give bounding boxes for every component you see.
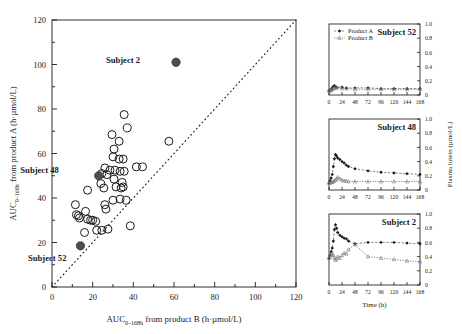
series-marker-product-a (329, 176, 332, 179)
panel-x-tick-label: 96 (378, 99, 384, 105)
panel-y-tick-label: 1.0 (425, 116, 432, 122)
panel-x-tick-label: 24 (339, 289, 345, 295)
series-marker-product-a (405, 241, 408, 244)
series-marker-product-a (353, 167, 356, 170)
y-tick-label: 100 (33, 60, 46, 70)
series-marker-product-a (405, 172, 408, 175)
data-point-open (115, 137, 123, 145)
panel-x-tick-label: 72 (365, 289, 371, 295)
panel-y-tick-label: 0 (425, 187, 428, 193)
x-tick-label: 0 (50, 292, 54, 302)
data-point-open (87, 216, 95, 224)
data-point-open (111, 166, 119, 174)
scatter-points (71, 58, 180, 250)
series-marker-product-a (379, 171, 382, 174)
y-tick-label: 80 (38, 104, 47, 114)
legend-label: Product B (348, 34, 373, 41)
series-marker-product-a (379, 241, 382, 244)
data-point-open (108, 131, 116, 139)
panel-x-tick-label: 168 (416, 99, 425, 105)
data-point-open (82, 207, 90, 215)
panel-x-tick-label: 48 (352, 194, 358, 200)
data-point-open (104, 225, 112, 233)
x-tick-label: 20 (88, 292, 97, 302)
x-tick-label: 40 (129, 292, 138, 302)
data-point-open (138, 163, 146, 171)
data-point-highlighted (76, 242, 84, 250)
panel-x-tick-label: 24 (339, 194, 345, 200)
series-marker-product-b (340, 253, 343, 256)
data-point-open (110, 175, 118, 183)
panel-y-tick-label: 0.4 (425, 159, 432, 165)
panel-y-tick-label: 0.2 (425, 268, 432, 274)
series-marker-product-a (332, 165, 335, 168)
series-marker-product-a (392, 171, 395, 174)
panel-y-tick-label: 0.2 (425, 173, 432, 179)
y-tick-label: 120 (33, 15, 46, 25)
x-axis-label: AUC0–168h from product B (h·µmol/L) (107, 314, 242, 326)
series-line-product-b (329, 245, 420, 262)
panel-y-tick-label: 0.6 (425, 50, 432, 56)
series-marker-product-a (333, 157, 336, 160)
panel-title: Subject 52 (378, 27, 416, 37)
figure-canvas: 020406080100120020406080100120Subject 2S… (0, 0, 462, 334)
series-marker-product-a (366, 169, 369, 172)
panel-y-tick-label: 0.8 (425, 130, 432, 136)
panel-title: Subject 2 (382, 217, 416, 227)
series-line-product-a (329, 225, 420, 258)
data-point-open (81, 228, 89, 236)
x-tick-label: 80 (210, 292, 219, 302)
panel-x-tick-label: 72 (365, 99, 371, 105)
panel-y-tick-label: 0.6 (425, 145, 432, 151)
panel-y-tick-label: 0.8 (425, 35, 432, 41)
panel-y-tick-label: 0.8 (425, 225, 432, 231)
panel-x-tick-label: 72 (365, 194, 371, 200)
panel-y-tick-label: 1.0 (425, 211, 432, 217)
panel-y-tick-label: 0.6 (425, 240, 432, 246)
data-point-open (165, 137, 173, 145)
panel-x-tick-label: 48 (352, 99, 358, 105)
data-point-open (71, 201, 79, 209)
subject-annotation: Subject 52 (28, 253, 66, 263)
y-tick-label: 40 (38, 193, 47, 203)
subject-annotation: Subject 48 (20, 165, 59, 175)
panel-x-tick-label: 120 (390, 99, 399, 105)
panel-y-tick-label: 1.0 (425, 21, 432, 27)
y-tick-label: 60 (38, 149, 47, 159)
data-point-open (120, 111, 128, 119)
panel-y-tick-label: 0 (425, 282, 428, 288)
legend-label: Product A (348, 27, 373, 34)
x-tick-label: 120 (290, 292, 303, 302)
legend-marker-product-a (338, 29, 341, 33)
panel-x-tick-label: 0 (328, 289, 331, 295)
subject-annotation: Subject 2 (106, 55, 140, 65)
panel-x-tick-label: 168 (416, 194, 425, 200)
y-tick-label: 0 (42, 282, 46, 292)
data-point-open (102, 205, 110, 213)
data-point-open (110, 145, 118, 153)
series-marker-product-a (334, 223, 337, 226)
panel-y-tick-label: 0 (425, 92, 428, 98)
panel-x-tick-label: 144 (403, 99, 412, 105)
series-marker-product-a (331, 173, 334, 176)
figure-container: 020406080100120020406080100120Subject 2S… (0, 0, 462, 334)
data-point-open (92, 217, 100, 225)
panel-x-tick-label: 96 (378, 289, 384, 295)
series-marker-product-a (331, 246, 334, 249)
panel-x-tick-label: 168 (416, 289, 425, 295)
panel-y-tick-label: 0.4 (425, 254, 432, 260)
panel-y-tick-label: 0.4 (425, 64, 432, 70)
y-tick-label: 20 (38, 238, 47, 248)
panel-x-tick-label: 24 (339, 99, 345, 105)
panel-x-tick-label: 48 (352, 289, 358, 295)
data-point-open (123, 124, 131, 132)
series-marker-product-b (347, 248, 350, 251)
y-axis-label: AUC0–168h from product A (h·µmol/L) (8, 86, 20, 221)
panel-x-axis-label: Time (h) (362, 301, 387, 309)
x-tick-label: 60 (170, 292, 179, 302)
panel-x-tick-label: 96 (378, 194, 384, 200)
panel-x-tick-label: 144 (403, 194, 412, 200)
x-tick-label: 100 (249, 292, 262, 302)
panel-x-tick-label: 120 (390, 194, 399, 200)
series-marker-product-a (392, 241, 395, 244)
